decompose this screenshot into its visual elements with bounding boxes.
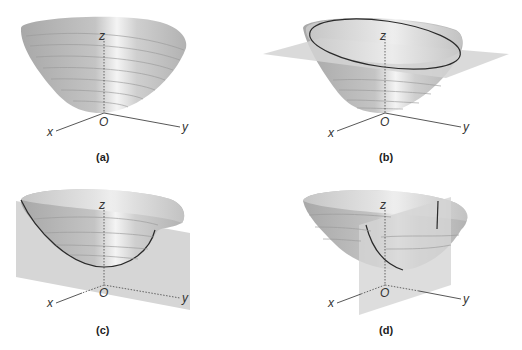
y-axis-label: y <box>182 121 188 133</box>
paraboloid-b <box>261 0 522 175</box>
figure: z O x y (a) z O x y (b) <box>0 0 522 350</box>
y-axis-label: y <box>182 292 188 304</box>
y-axis-label: y <box>463 293 469 305</box>
caption-a: (a) <box>96 152 109 163</box>
z-axis-label: z <box>99 30 105 42</box>
paraboloid-a <box>0 0 261 175</box>
panel-a: z O x y (a) <box>0 0 261 175</box>
z-axis-label: z <box>380 199 386 211</box>
caption-d: (d) <box>379 325 393 336</box>
z-axis-label: z <box>99 199 105 211</box>
x-axis-label: x <box>47 126 53 138</box>
panel-c: z O x y (c) <box>0 175 261 350</box>
z-axis-label: z <box>380 30 386 42</box>
paraboloid-c <box>0 175 261 350</box>
origin-label: O <box>380 116 389 128</box>
panel-b: z O x y (b) <box>261 0 522 175</box>
origin-label: O <box>380 287 389 299</box>
caption-c: (c) <box>96 325 109 336</box>
origin-label: O <box>99 116 108 128</box>
x-axis-label: x <box>328 297 334 309</box>
y-axis-label: y <box>463 121 469 133</box>
caption-b: (b) <box>379 152 393 163</box>
panel-d: z O x y (d) <box>261 175 522 350</box>
x-axis-label: x <box>328 127 334 139</box>
x-axis-label: x <box>47 297 53 309</box>
origin-label: O <box>99 287 108 299</box>
